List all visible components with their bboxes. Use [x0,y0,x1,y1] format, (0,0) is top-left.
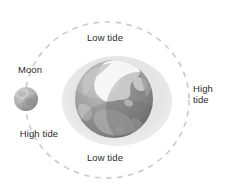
label-low-tide-bottom: Low tide [72,152,138,163]
label-high-tide-left: High tide [8,128,70,139]
label-high-tide-right: High tide [193,83,225,105]
moon-terminator-shadow [22,95,44,117]
label-moon: Moon [8,64,52,75]
label-low-tide-top: Low tide [72,32,138,43]
tide-diagram: Low tide Low tide High tide High tide Mo… [0,0,228,190]
moon-highlight [14,86,28,98]
